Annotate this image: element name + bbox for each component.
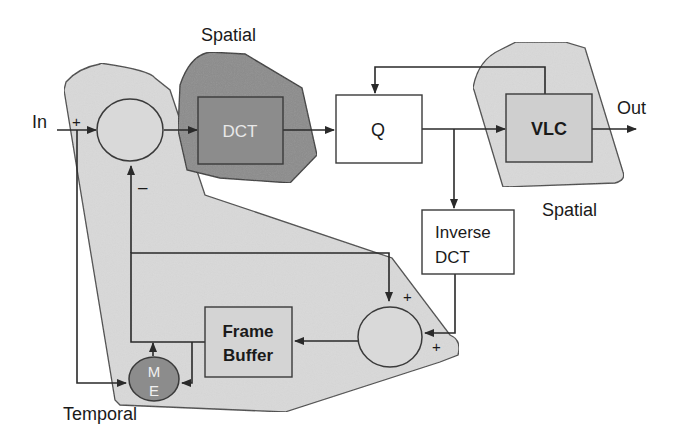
subtractor-plus-sign: + [72, 113, 81, 130]
subtractor-node [97, 99, 163, 161]
frame-buffer-label-line1: Frame [222, 322, 273, 341]
me-label-e: E [149, 382, 159, 399]
spatial-label-top: Spatial [201, 25, 256, 45]
inverse-dct-label-line2: DCT [435, 248, 470, 267]
subtractor-minus-sign: – [138, 178, 148, 197]
input-label: In [32, 112, 47, 132]
output-label: Out [617, 98, 646, 118]
adder-node [358, 307, 422, 367]
vlc-label: VLC [531, 119, 567, 139]
quantizer-label: Q [371, 120, 385, 140]
frame-buffer-label-line2: Buffer [223, 346, 273, 365]
temporal-label: Temporal [63, 404, 137, 424]
frame-buffer-block [205, 307, 292, 377]
adder-plus-top: + [403, 288, 412, 305]
inverse-dct-label-line1: Inverse [435, 223, 491, 242]
dct-label: DCT [223, 122, 258, 141]
adder-plus-right: + [432, 338, 441, 355]
encoder-diagram: Spatial Spatial Temporal In Out + – DCT … [0, 0, 678, 448]
spatial-label-right: Spatial [542, 200, 597, 220]
me-label-m: M [148, 363, 161, 380]
